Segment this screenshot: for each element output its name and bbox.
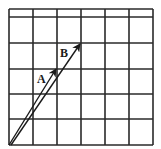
vector-label-a: A <box>37 72 46 86</box>
vector-grid-diagram: AB <box>0 0 161 149</box>
vector-label-b: B <box>60 46 68 60</box>
grid <box>9 9 153 145</box>
